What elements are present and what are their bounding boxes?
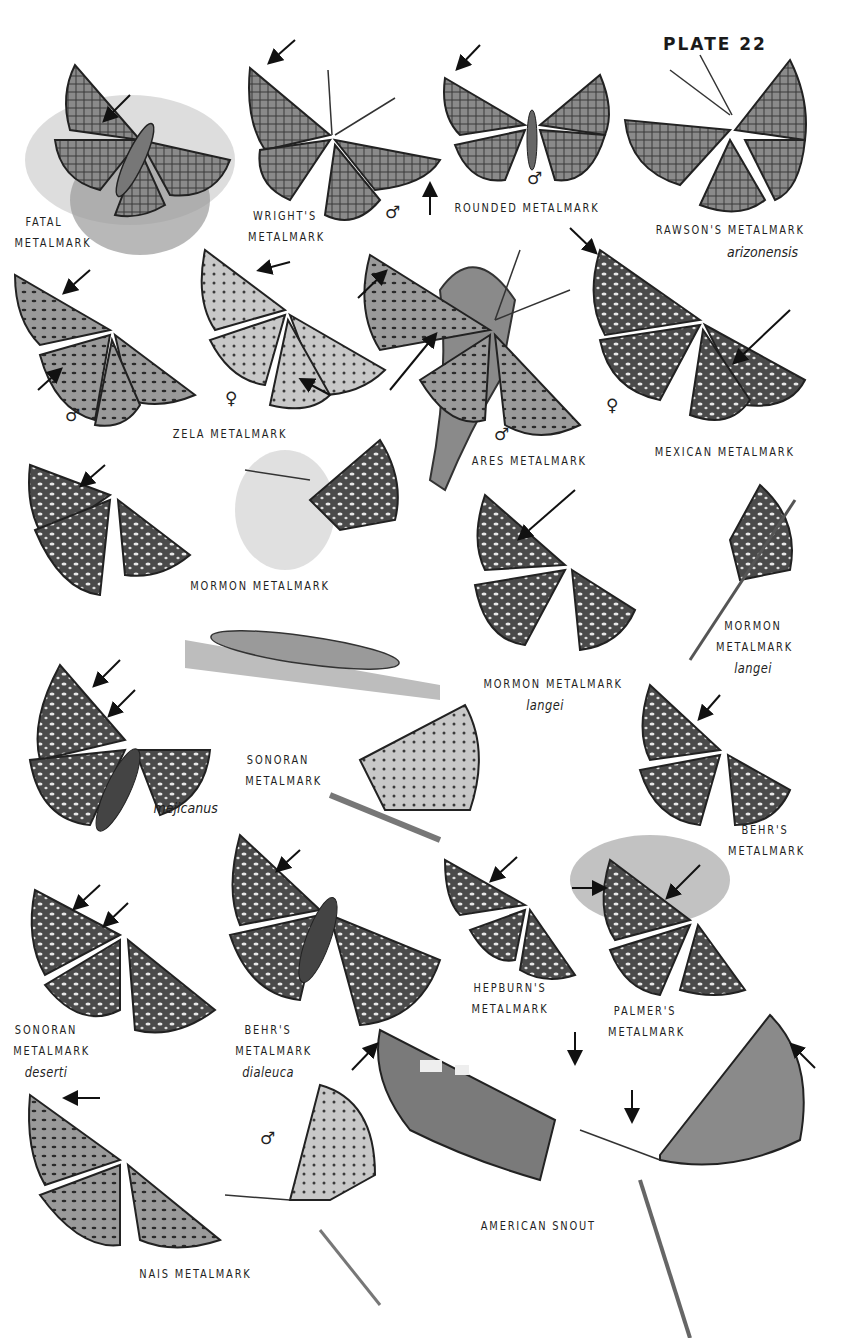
female-symbol-icon: ♀: [606, 395, 618, 415]
label-american-snout: AMERICAN SNOUT: [481, 1216, 579, 1237]
label-sonoran-metalmark-deserti: SONORAN METALMARK deserti: [13, 1020, 79, 1083]
label-mormon-metalmark-langei-ventral: MORMON METALMARK langei: [716, 616, 790, 679]
field-guide-plate: PLATE 22: [0, 0, 858, 1338]
behrs-metalmark-figure: [640, 685, 790, 825]
american-snout-dorsal-figure: [352, 1030, 575, 1180]
rounded-metalmark-figure: [444, 45, 609, 181]
female-symbol-icon: ♀: [225, 388, 237, 408]
label-zela-metalmark: ZELA METALMARK: [173, 424, 288, 445]
male-symbol-icon: ♂: [260, 1128, 275, 1148]
label-mormon-metalmark-langei: MORMON METALMARK langei: [484, 674, 607, 716]
zela-metalmark-male-figure: [15, 270, 195, 426]
label-rawsons-metalmark: RAWSON'S METALMARK: [656, 220, 800, 241]
label-sonoran-metalmark: SONORAN METALMARK: [245, 750, 311, 792]
nais-metalmark-figure: [29, 1095, 220, 1248]
mormon-metalmark-dorsal-figure: [29, 465, 190, 595]
label-ares-metalmark: ARES METALMARK: [472, 451, 579, 472]
label-mexican-metalmark: MEXICAN METALMARK: [655, 442, 790, 463]
subspecies-mejicanus: mejicanus: [154, 800, 218, 816]
mormon-caterpillar-figure: [185, 623, 440, 700]
zela-metalmark-female-figure: [202, 250, 385, 408]
label-behrs-metalmark-dialeuca: BEHR'S METALMARK dialeuca: [235, 1020, 301, 1083]
label-palmers-metalmark: PALMER'S METALMARK: [608, 1001, 682, 1043]
hepburns-metalmark-figure: [445, 857, 575, 979]
mormon-metalmark-ventral-figure: [235, 440, 398, 570]
male-symbol-icon: ♂: [527, 168, 542, 188]
label-behrs-metalmark: BEHR'S METALMARK: [728, 820, 802, 862]
label-nais-metalmark: NAIS METALMARK: [139, 1264, 242, 1285]
rawsons-metalmark-figure: [625, 55, 806, 211]
sonoran-metalmark-ventral-figure: [330, 705, 479, 840]
subspecies-arizonensis: arizonensis: [727, 244, 798, 260]
label-rounded-metalmark: ROUNDED METALMARK: [454, 198, 585, 219]
label-mormon-metalmark: MORMON METALMARK: [190, 576, 329, 597]
male-symbol-icon: ♂: [494, 424, 509, 444]
american-snout-ventral-figure: [580, 1015, 815, 1338]
palmers-metalmark-figure: [570, 835, 745, 995]
mormon-langei-dorsal-figure: [475, 490, 635, 650]
label-wrights-metalmark: WRIGHT'S METALMARK: [248, 206, 322, 248]
label-hepburns-metalmark: HEPBURN'S METALMARK: [469, 978, 551, 1020]
male-symbol-icon: ♂: [65, 405, 80, 425]
behrs-dialeuca-figure: [230, 835, 440, 1025]
wrights-metalmark-figure: [249, 40, 440, 220]
label-fatal-metalmark: FATAL METALMARK: [14, 212, 73, 254]
sonoran-deserti-figure: [32, 885, 215, 1033]
male-symbol-icon: ♂: [385, 202, 400, 222]
